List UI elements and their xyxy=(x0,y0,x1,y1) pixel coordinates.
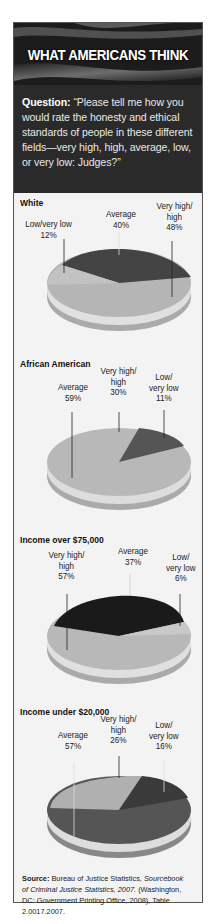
section-income-under-20000: Income under $20,000 Average 57% Very hi… xyxy=(14,706,202,866)
pie-chart-african-american xyxy=(14,358,202,513)
infographic-box: WHAT AMERICANS THINK Question: “Please t… xyxy=(13,22,203,903)
pie-chart-income-over-75000 xyxy=(14,534,202,694)
banner-title: WHAT AMERICANS THINK xyxy=(27,46,189,64)
question-text: Question: “Please tell me how you would … xyxy=(14,85,202,193)
pie-chart-income-under-20000 xyxy=(14,706,202,866)
source-citation: Source: Bureau of Justice Statistics, So… xyxy=(22,873,186,917)
source-label: Source: xyxy=(22,874,49,883)
section-white: White Low/very low 12% Average 40% Very … xyxy=(14,197,202,347)
banner: WHAT AMERICANS THINK xyxy=(14,23,202,85)
question-label: Question: xyxy=(22,96,71,108)
section-african-american: African American Average 59% Very high/ … xyxy=(14,358,202,513)
pie-chart-white xyxy=(14,197,202,347)
section-income-over-75000: Income over $75,000 Very high/ high 57% … xyxy=(14,534,202,694)
